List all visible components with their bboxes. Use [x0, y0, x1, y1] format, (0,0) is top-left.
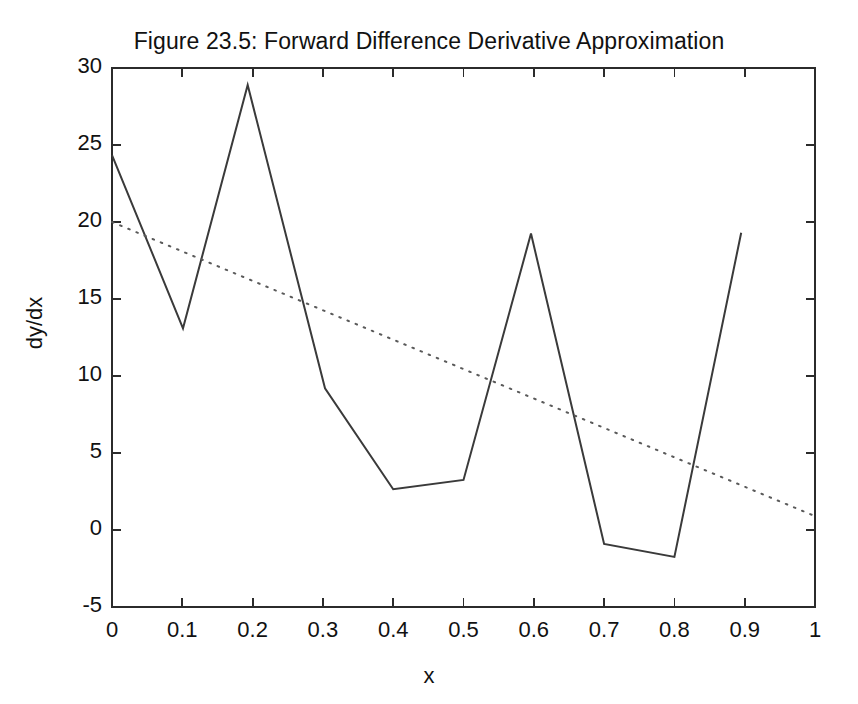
series-exact-derivative — [112, 222, 815, 516]
axis-box — [112, 68, 815, 607]
y-tick-label-7: 30 — [40, 53, 102, 79]
y-tick-label-6: 25 — [40, 130, 102, 156]
x-tick-label-5: 0.5 — [429, 617, 499, 643]
tick-marks — [112, 68, 815, 607]
y-tick-label-1: 0 — [40, 515, 102, 541]
y-tick-label-4: 15 — [40, 284, 102, 310]
y-tick-label-0: -5 — [40, 592, 102, 618]
y-tick-label-2: 5 — [40, 438, 102, 464]
y-tick-label-3: 10 — [40, 361, 102, 387]
x-tick-label-9: 0.9 — [710, 617, 780, 643]
x-tick-label-7: 0.7 — [569, 617, 639, 643]
x-tick-label-10: 1 — [780, 617, 850, 643]
y-axis-label: dy/dx — [22, 263, 48, 383]
axis-frame — [112, 68, 815, 607]
x-tick-label-1: 0.1 — [147, 617, 217, 643]
data-series — [112, 85, 815, 557]
x-tick-label-6: 0.6 — [499, 617, 569, 643]
x-tick-label-3: 0.3 — [288, 617, 358, 643]
x-tick-label-4: 0.4 — [358, 617, 428, 643]
x-tick-label-2: 0.2 — [218, 617, 288, 643]
plot-canvas — [0, 0, 858, 704]
x-tick-label-8: 0.8 — [639, 617, 709, 643]
x-tick-label-0: 0 — [77, 617, 147, 643]
x-axis-label: x — [0, 663, 858, 689]
figure-container: Figure 23.5: Forward Difference Derivati… — [0, 0, 858, 704]
y-tick-label-5: 20 — [40, 207, 102, 233]
series-forward-difference-approximation — [112, 85, 741, 557]
